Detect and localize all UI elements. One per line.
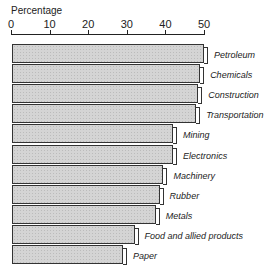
tick-label: 0 [8, 18, 14, 30]
bar-label: Electronics [183, 151, 227, 161]
bar [12, 124, 173, 143]
x-axis-title: Percentage [11, 5, 62, 16]
bar-label: Rubber [170, 191, 200, 201]
bar [12, 205, 156, 224]
bar-label: Food and allied products [145, 231, 244, 241]
bar [12, 245, 123, 264]
bar [12, 104, 196, 123]
tick-label: 50 [198, 18, 210, 30]
bar-label: Petroleum [214, 50, 255, 60]
x-axis-line [11, 34, 204, 35]
tick-label: 20 [82, 18, 94, 30]
bar [12, 165, 163, 184]
bar [12, 145, 173, 164]
tick-label: 30 [121, 18, 133, 30]
bar [12, 185, 160, 204]
bar-label: Mining [183, 130, 210, 140]
bar-label: Construction [208, 90, 259, 100]
bar [12, 225, 135, 244]
bar-label: Paper [133, 251, 157, 261]
tick-mark [204, 30, 205, 35]
tick-label: 10 [43, 18, 55, 30]
bar [12, 64, 200, 83]
bar [12, 44, 204, 63]
bar [12, 84, 198, 103]
bar-label: Metals [166, 211, 193, 221]
bar-label: Machinery [173, 171, 215, 181]
bar-label: Chemicals [210, 70, 252, 80]
tick-label: 40 [159, 18, 171, 30]
bar-label: Transportation [206, 110, 263, 120]
